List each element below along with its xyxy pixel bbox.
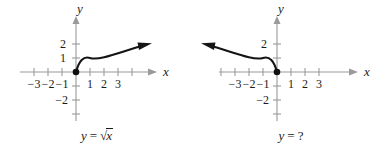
x-tick-label-neg3: −3 (28, 77, 41, 91)
y-tick-label-2: 2 (261, 37, 267, 51)
x-axis-arrowhead (148, 69, 157, 76)
x-tick-label-3: 3 (115, 77, 121, 91)
radical-radicand: x (106, 128, 113, 143)
y-tick-label-neg2: −2 (55, 93, 68, 107)
caption-left-equals: = (87, 128, 100, 143)
x-tick-label-neg1: −1 (56, 77, 69, 91)
caption-right: y=? (194, 128, 388, 144)
sqrt-curve (76, 45, 145, 72)
y-tick-label-neg2: −2 (256, 93, 269, 107)
x-axis-arrowhead (349, 69, 358, 76)
x-tick-label-2: 2 (101, 77, 107, 91)
caption-left: y=√x (0, 128, 194, 144)
x-axis-label: x (363, 64, 370, 79)
y-axis-label: y (75, 1, 83, 16)
caption-left-radical: √x (100, 128, 113, 144)
y-axis-arrowhead (73, 16, 80, 24)
figure-root: −3 −2 −1 1 2 3 2 1 −2 x y y=√x (0, 0, 388, 161)
x-axis-label: x (162, 64, 169, 79)
graph-panel-left: −3 −2 −1 1 2 3 2 1 −2 x y y=√x (0, 0, 194, 161)
coordinate-plane-right: −3 −2 −1 1 2 3 2 −2 x y (194, 0, 388, 131)
y-axis-arrowhead (274, 16, 281, 24)
x-tick-label-neg2: −2 (42, 77, 55, 91)
y-tick-label-2: 2 (60, 37, 66, 51)
x-tick-label-neg3: −3 (229, 77, 242, 91)
origin-point-dot (73, 69, 80, 76)
x-tick-label-1: 1 (288, 77, 294, 91)
caption-left-lhs: y (81, 128, 87, 143)
origin-point-dot (274, 69, 281, 76)
caption-right-equals: = (284, 128, 297, 143)
curve-arrowhead-right (138, 43, 153, 51)
curve-arrowhead-left (201, 43, 216, 51)
x-tick-label-1: 1 (87, 77, 93, 91)
graph-panel-right: −3 −2 −1 1 2 3 2 −2 x y y=? (194, 0, 388, 161)
coordinate-plane-left: −3 −2 −1 1 2 3 2 1 −2 x y (0, 0, 194, 131)
x-tick-label-2: 2 (302, 77, 308, 91)
caption-right-unknown: ? (298, 128, 304, 143)
x-tick-label-neg1: −1 (257, 77, 270, 91)
x-tick-label-neg2: −2 (243, 77, 256, 91)
y-axis-label: y (276, 1, 284, 16)
x-tick-label-3: 3 (316, 77, 322, 91)
y-tick-label-1: 1 (60, 51, 66, 65)
